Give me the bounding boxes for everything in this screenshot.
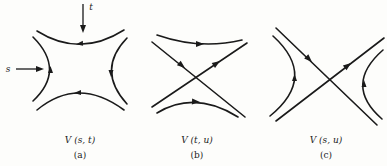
- arrow-up-icon: [292, 74, 297, 81]
- arrow-right-icon: [192, 99, 200, 105]
- panel-c-sublabel: (c): [320, 150, 332, 160]
- panel-a-bottom-line: [37, 93, 124, 110]
- arrow-right-icon: [36, 66, 44, 72]
- panel-b-bottom-line: [157, 102, 238, 117]
- t-label: t: [89, 2, 93, 12]
- panel-a-caption: V (s, t): [65, 135, 95, 145]
- panel-c-cross-line-2: [276, 38, 384, 121]
- panel-b-diagram: [152, 35, 247, 117]
- panel-a-diagram: [16, 4, 127, 110]
- panel-b-caption: V (t, u): [181, 135, 213, 145]
- arrow-right-icon: [196, 41, 204, 47]
- panel-c-diagram: [270, 28, 384, 125]
- panel-c-caption: V (s, u): [310, 135, 343, 145]
- panel-c-cross-line-1: [276, 28, 377, 125]
- panel-c-right-line: [363, 50, 383, 119]
- panel-a-sublabel: (a): [74, 150, 86, 160]
- feynman-diagram-figure: s t V (s, t) (a) V (t, u) (b) V (s, u) (…: [0, 0, 387, 166]
- s-label: s: [6, 64, 11, 74]
- panel-b-sublabel: (b): [191, 150, 204, 160]
- panel-a-right-line: [112, 38, 128, 104]
- panel-c-left-line: [270, 36, 295, 116]
- arrow-down-icon: [80, 25, 86, 33]
